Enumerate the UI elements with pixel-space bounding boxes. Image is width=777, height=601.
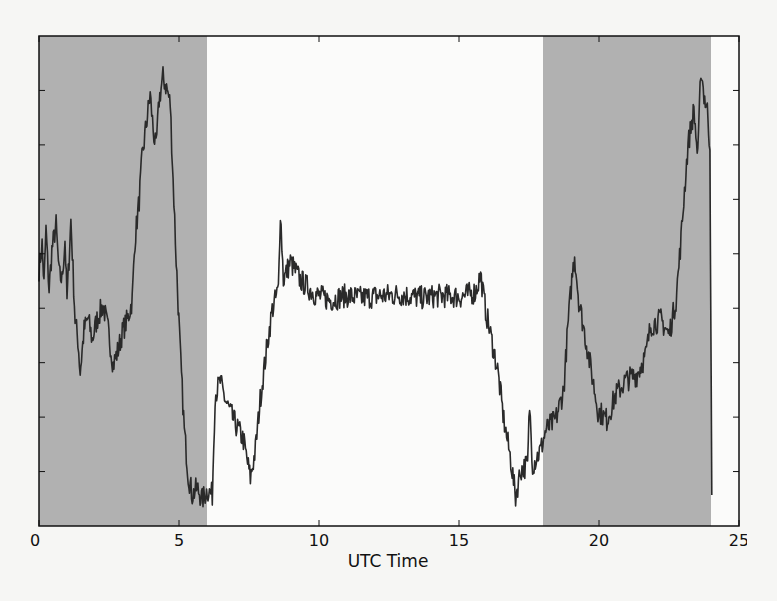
x-tick-label-clip: 0 bbox=[0, 525, 40, 555]
x-axis-label: UTC Time bbox=[348, 551, 429, 571]
x-tick-label: 5 bbox=[174, 531, 184, 550]
x-tick-label: 10 bbox=[309, 531, 329, 550]
shaded-regions bbox=[39, 36, 739, 526]
x-tick-label: 15 bbox=[449, 531, 469, 550]
night-shade-region bbox=[39, 36, 207, 526]
x-tick-label: 0 bbox=[30, 531, 40, 550]
x-tick-label-clip: 25 bbox=[700, 525, 747, 555]
night-shade-region bbox=[543, 36, 711, 526]
x-tick-label: 20 bbox=[589, 531, 609, 550]
plot-area bbox=[0, 0, 777, 601]
x-tick-label: 25 bbox=[729, 531, 747, 550]
chart: 0510152025 UTC Time bbox=[0, 0, 777, 601]
